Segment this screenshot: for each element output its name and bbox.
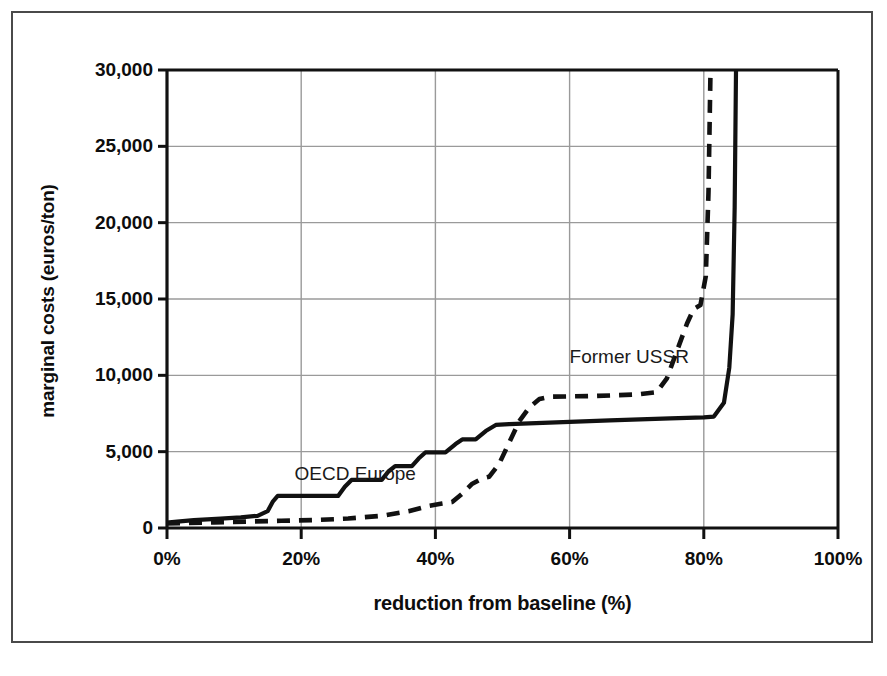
figure-container: 05,00010,00015,00020,00025,00030,000 0%2… [0,0,887,676]
chart-plot-area [0,0,887,676]
y-tick-label: 30,000 [20,59,153,81]
series-label-oecd-europe: OECD Europe [294,463,415,485]
x-tick-label: 40% [416,548,454,570]
y-axis-title: marginal costs (euros/ton) [37,131,59,471]
x-tick-label: 60% [551,548,589,570]
x-tick-label: 20% [282,548,320,570]
data-series-group [167,70,736,523]
x-tick-label: 80% [685,548,723,570]
series-line-former-ussr [167,70,711,523]
x-axis-title: reduction from baseline (%) [167,592,838,615]
series-line-oecd-europe [167,70,736,523]
y-tick-label: 0 [20,517,153,539]
x-tick-label: 100% [814,548,863,570]
series-label-former-ussr: Former USSR [570,346,689,368]
x-tick-label: 0% [153,548,180,570]
